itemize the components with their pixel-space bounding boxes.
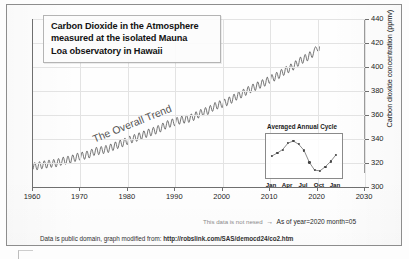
unused-data-note: This data is not nesed (203, 218, 263, 225)
x-tick-label: 2000 (213, 193, 230, 201)
inset-plot-area (265, 133, 343, 179)
y-tick-label: 380 (371, 87, 384, 95)
arrow-icon: → (264, 218, 275, 225)
page-title-line-2: measured at the isolated Mauna (51, 32, 214, 44)
y-tick-mark (365, 139, 369, 140)
x-tick-mark (222, 188, 223, 191)
scanned-page-frame: 300320340360380400420440 196019701980199… (6, 4, 402, 246)
source-url-link[interactable]: http://robslink.com/SAS/democd24/co2.htm (163, 235, 293, 242)
y-tick-mark (365, 115, 369, 116)
y-tick-label: 440 (371, 15, 384, 23)
y-axis-title: Carbon dioxide concentration (ppmv) (385, 10, 394, 128)
x-tick-mark (32, 188, 33, 191)
source-attribution: Data is public domain, graph modified fr… (40, 235, 293, 242)
gridline-horizontal (33, 67, 365, 68)
gridline-vertical (223, 19, 224, 187)
y-tick-label: 360 (371, 111, 384, 119)
inset-x-tick-label: Oct (314, 181, 324, 188)
y-tick-label: 340 (371, 135, 384, 143)
y-tick-label: 300 (371, 183, 384, 191)
y-tick-label: 400 (371, 63, 384, 71)
page-title-line-3: Loa observatory in Hawaii (51, 45, 214, 57)
x-tick-mark (79, 188, 80, 191)
y-tick-mark (365, 67, 369, 68)
page-edge-artifact (18, 250, 33, 259)
y-tick-mark (365, 43, 369, 44)
annual-cycle-inset-chart: Averaged Annual Cycle JanAprJulOctJan (259, 123, 345, 195)
inset-x-tick-label: Jul (299, 181, 308, 188)
page-title: Carbon Dioxide in the Atmosphere (51, 20, 214, 32)
inset-cycle-line (266, 134, 342, 178)
x-tick-label: 1980 (119, 193, 136, 201)
inset-x-tick-label: Jan (266, 181, 277, 188)
source-prefix-label: Data is public domain, graph modified fr… (40, 235, 161, 242)
x-tick-label: 2030 (356, 193, 373, 201)
inset-chart-title: Averaged Annual Cycle (259, 123, 345, 130)
status-note: This data is not nesed → As of year=2020… (203, 218, 356, 225)
inset-x-tick-label: Jan (330, 181, 341, 188)
y-tick-mark (365, 163, 369, 164)
gridline-horizontal (33, 91, 365, 92)
chart-title-callout: Carbon Dioxide in the Atmosphere measure… (43, 15, 221, 63)
inset-x-tick-label: Apr (282, 181, 293, 188)
x-tick-label: 1970 (71, 193, 88, 201)
gridline-horizontal (33, 115, 365, 116)
as-of-date-label: As of year=2020 month=05 (277, 218, 357, 225)
x-tick-mark (364, 188, 365, 191)
y-tick-mark (365, 187, 369, 188)
x-tick-mark (174, 188, 175, 191)
y-tick-mark (365, 19, 369, 20)
y-tick-label: 420 (371, 39, 384, 47)
y-tick-mark (365, 91, 369, 92)
gridline-vertical (365, 19, 366, 187)
x-tick-label: 1990 (166, 193, 183, 201)
x-tick-label: 1960 (24, 193, 41, 201)
x-tick-mark (127, 188, 128, 191)
y-tick-label: 320 (371, 159, 384, 167)
